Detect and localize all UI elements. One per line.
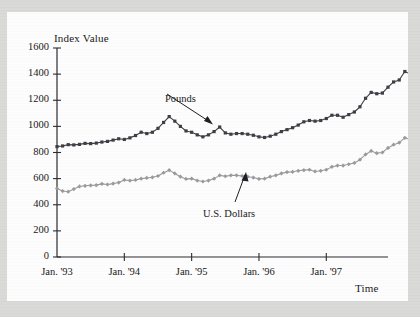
data-point-marker	[291, 170, 295, 174]
data-point-marker	[145, 132, 148, 135]
data-point-marker	[252, 134, 255, 137]
data-point-marker	[117, 137, 120, 140]
data-point-marker	[77, 184, 81, 188]
series-u-s-dollars	[55, 120, 408, 193]
data-point-marker	[100, 182, 104, 186]
figure-card: Index Value Time 02004006008001000120014…	[7, 12, 408, 301]
data-point-marker	[55, 145, 58, 148]
chart-axes	[53, 48, 388, 261]
chart-series-group	[55, 54, 408, 194]
y-axis-tick-label: 1200	[15, 93, 49, 104]
data-point-marker	[319, 119, 322, 122]
data-point-marker	[358, 105, 361, 108]
data-point-marker	[280, 130, 283, 133]
y-axis-tick-label: 800	[15, 146, 49, 157]
data-point-marker	[392, 80, 395, 83]
series-label-us-dollars: U.S. Dollars	[203, 208, 255, 219]
data-point-marker	[94, 183, 98, 187]
data-point-marker	[324, 168, 328, 172]
data-point-marker	[190, 131, 193, 134]
data-point-marker	[353, 110, 356, 113]
y-axis-tick-label: 200	[15, 224, 49, 235]
data-point-marker	[319, 169, 323, 173]
data-point-marker	[263, 136, 266, 139]
data-point-marker	[67, 143, 70, 146]
x-axis-tick-label: Jan. '95	[164, 266, 220, 277]
data-point-marker	[285, 128, 288, 131]
data-point-marker	[95, 141, 98, 144]
data-point-marker	[234, 173, 238, 177]
data-point-marker	[190, 177, 194, 181]
data-point-marker	[364, 97, 367, 100]
data-point-marker	[330, 114, 333, 117]
data-point-marker	[117, 180, 121, 184]
data-point-marker	[156, 127, 159, 130]
data-point-marker	[66, 190, 70, 194]
data-point-marker	[285, 170, 289, 174]
data-point-marker	[78, 143, 81, 146]
x-axis-tick-label: Jan. '93	[29, 266, 85, 277]
data-point-marker	[133, 178, 137, 182]
data-point-marker	[173, 120, 176, 123]
data-point-marker	[386, 86, 389, 89]
y-axis-tick-label: 1000	[15, 119, 49, 130]
data-point-marker	[313, 120, 316, 123]
data-point-marker	[403, 70, 406, 73]
data-point-marker	[302, 168, 306, 172]
data-point-marker	[83, 142, 86, 145]
annotation-arrows	[167, 94, 249, 202]
data-point-marker	[302, 120, 305, 123]
data-point-marker	[122, 178, 126, 182]
x-axis-tick-label: Jan. '94	[96, 266, 152, 277]
data-point-marker	[111, 181, 115, 185]
data-point-marker	[229, 173, 233, 177]
data-point-marker	[150, 175, 154, 179]
data-point-marker	[112, 138, 115, 141]
data-point-marker	[72, 187, 76, 191]
data-point-marker	[335, 163, 339, 167]
data-point-marker	[257, 135, 260, 138]
data-point-marker	[325, 117, 328, 120]
data-point-marker	[206, 178, 210, 182]
data-point-marker	[128, 136, 131, 139]
data-point-marker	[123, 138, 126, 141]
data-point-marker	[241, 132, 244, 135]
data-point-marker	[229, 133, 232, 136]
data-point-marker	[297, 123, 300, 126]
data-point-marker	[223, 174, 227, 178]
data-point-marker	[207, 133, 210, 136]
y-axis-tick-label: 1400	[15, 67, 49, 78]
data-point-marker	[330, 165, 334, 169]
data-point-marker	[134, 134, 137, 137]
pounds-arrow-head	[204, 116, 213, 125]
data-point-marker	[61, 144, 64, 147]
data-point-marker	[375, 92, 378, 95]
series-pounds	[55, 54, 408, 149]
data-point-marker	[179, 125, 182, 128]
y-axis-tick-label: 0	[15, 250, 49, 261]
data-point-marker	[224, 131, 227, 134]
data-point-marker	[162, 121, 165, 124]
data-point-marker	[347, 113, 350, 116]
data-point-marker	[55, 186, 59, 190]
data-point-marker	[89, 142, 92, 145]
data-point-marker	[201, 135, 204, 138]
data-point-marker	[235, 132, 238, 135]
data-point-marker	[72, 143, 75, 146]
data-point-marker	[274, 133, 277, 136]
data-point-marker	[268, 175, 272, 179]
page-root: Index Value Time 02004006008001000120014…	[0, 0, 420, 317]
x-axis-title: Time	[355, 282, 379, 294]
data-point-marker	[341, 163, 345, 167]
data-point-marker	[375, 151, 379, 155]
data-point-marker	[342, 116, 345, 119]
data-point-marker	[262, 177, 266, 181]
chart-canvas	[7, 12, 408, 301]
data-point-marker	[336, 114, 339, 117]
data-point-marker	[140, 131, 143, 134]
data-point-marker	[151, 131, 154, 134]
data-point-marker	[269, 135, 272, 138]
series-label-pounds: Pounds	[165, 93, 196, 104]
data-point-marker	[291, 126, 294, 129]
data-point-marker	[105, 182, 109, 186]
